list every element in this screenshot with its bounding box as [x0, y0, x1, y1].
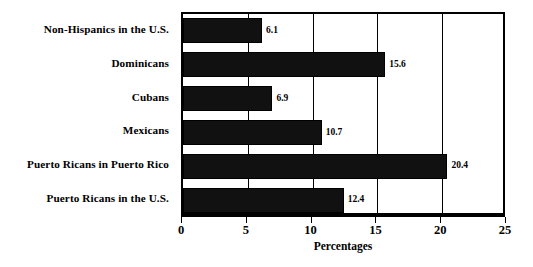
bar[interactable]: [183, 52, 385, 77]
bar-row[interactable]: 10.7: [183, 116, 342, 150]
x-axis-tick-label: 0: [178, 224, 184, 237]
x-axis-tick-label: 20: [434, 224, 447, 237]
bar-value-label: 15.6: [389, 60, 406, 70]
bar-value-label: 20.4: [451, 161, 468, 171]
bar-row[interactable]: 12.4: [183, 183, 364, 217]
bar-row[interactable]: 6.1: [183, 14, 278, 48]
category-label-row: Dominicans: [0, 46, 175, 80]
category-label-row: Non-Hispanics in the U.S.: [0, 12, 175, 46]
bar-value-label: 6.1: [266, 26, 278, 36]
category-axis-labels: Non-Hispanics in the U.S. Dominicans Cub…: [0, 12, 175, 215]
bars-layer: 6.115.66.910.720.412.4: [183, 14, 503, 213]
category-label: Puerto Ricans in the U.S.: [47, 192, 169, 204]
x-axis-tick-label: 25: [499, 224, 512, 237]
x-axis: [181, 215, 505, 217]
bar-row[interactable]: 20.4: [183, 149, 468, 183]
bar[interactable]: [183, 18, 262, 43]
bar-row[interactable]: 15.6: [183, 48, 406, 82]
category-label: Non-Hispanics in the U.S.: [44, 23, 169, 35]
bar[interactable]: [183, 86, 272, 111]
bar[interactable]: [183, 154, 447, 179]
category-label: Mexicans: [123, 124, 169, 136]
category-label-row: Mexicans: [0, 113, 175, 147]
category-label: Dominicans: [111, 57, 169, 69]
bar-value-label: 6.9: [276, 94, 288, 104]
category-label: Puerto Ricans in Puerto Rico: [27, 158, 169, 170]
bar-chart: Non-Hispanics in the U.S. Dominicans Cub…: [0, 0, 533, 267]
category-label-row: Cubans: [0, 80, 175, 114]
bar-row[interactable]: 6.9: [183, 82, 288, 116]
bar-value-label: 12.4: [348, 195, 365, 205]
category-label-row: Puerto Ricans in Puerto Rico: [0, 147, 175, 181]
x-axis-tick-label: 5: [243, 224, 249, 237]
x-axis-tick-label: 15: [369, 224, 382, 237]
bar[interactable]: [183, 188, 344, 213]
x-axis-title: Percentages: [181, 240, 505, 252]
bar-value-label: 10.7: [326, 128, 343, 138]
category-label-row: Puerto Ricans in the U.S.: [0, 181, 175, 215]
plot-area: 6.115.66.910.720.412.4: [181, 12, 505, 215]
category-label: Cubans: [132, 91, 169, 103]
bar[interactable]: [183, 120, 322, 145]
x-axis-tick-label: 10: [304, 224, 317, 237]
